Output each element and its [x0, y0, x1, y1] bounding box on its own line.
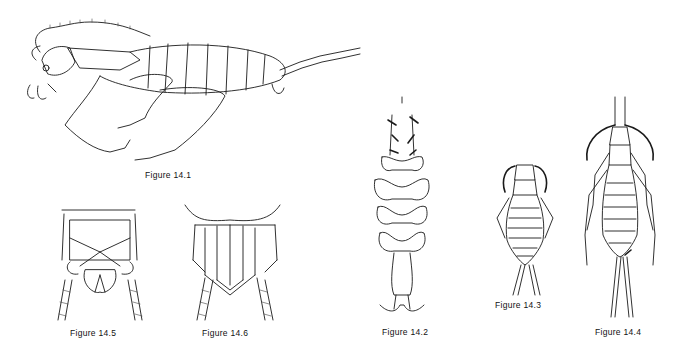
figure-caption: Figure 14.4 [595, 327, 641, 337]
figure-caption: Figure 14.2 [382, 327, 428, 337]
small-insect-illustration [485, 150, 575, 300]
lobed-insect-illustration [370, 95, 470, 320]
figure-caption: Figure 14.6 [202, 328, 248, 338]
abdomen-tip-illustration [50, 200, 150, 320]
figure-14-4: Figure 14.4 [575, 95, 675, 345]
figure-14-2: Figure 14.2 [370, 95, 470, 345]
figure-caption: Figure 14.3 [495, 300, 541, 310]
figure-14-3: Figure 14.3 [485, 150, 575, 320]
figure-14-6: Figure 14.6 [175, 200, 295, 345]
figure-caption: Figure 14.1 [145, 170, 191, 180]
large-insect-illustration [575, 95, 675, 320]
figure-caption: Figure 14.5 [70, 328, 116, 338]
insect-lateral-illustration [0, 0, 370, 180]
figure-14-5: Figure 14.5 [50, 200, 150, 345]
abdomen-tip-illustration [175, 200, 295, 320]
figure-14-1: Figure 14.1 [0, 0, 370, 180]
